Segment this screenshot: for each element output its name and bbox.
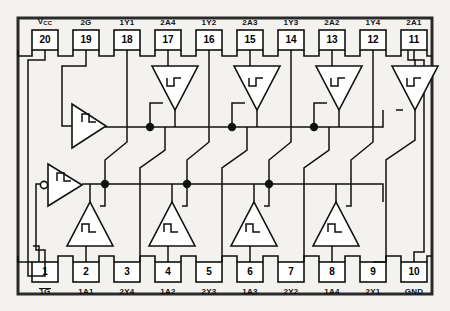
pin-label-6: 1A3 <box>232 287 268 296</box>
wire-2y1-out <box>373 110 415 262</box>
enable-buffer-1g <box>40 164 82 206</box>
pin-number-20: 20 <box>32 35 58 45</box>
pin-label-3: 2Y4 <box>109 287 145 296</box>
pin-number-14: 14 <box>278 35 304 45</box>
schmitt-inverter-1a2 <box>149 202 195 246</box>
pin-label-11: 2A1 <box>396 18 432 27</box>
diagram-canvas <box>0 0 450 311</box>
pin-label-19: 2G <box>68 18 104 27</box>
pin-label-8: 1A4 <box>314 287 350 296</box>
pin-number-18: 18 <box>114 35 140 45</box>
junction-dot <box>101 180 109 188</box>
junction-dot <box>183 180 191 188</box>
pin-number-1: 1 <box>32 267 58 277</box>
pin-number-9: 9 <box>360 267 386 277</box>
package-outline-bottom <box>18 256 432 262</box>
outer-frame <box>18 18 432 294</box>
pin-number-10: 10 <box>401 267 427 277</box>
pin-label-17: 2A4 <box>150 18 186 27</box>
junction-dot <box>310 123 318 131</box>
schmitt-inverter-1a1 <box>67 202 113 246</box>
pin-number-15: 15 <box>237 35 263 45</box>
inversion-bubble-icon <box>40 181 47 188</box>
pin-label-18: 1Y1 <box>109 18 145 27</box>
schmitt-inverter-1a3 <box>231 202 277 246</box>
lower-schmitt-inverters <box>67 202 359 246</box>
pin-label-4: 1A2 <box>150 287 186 296</box>
pin-number-13: 13 <box>319 35 345 45</box>
junction-dot <box>228 123 236 131</box>
pin-label-13: 2A2 <box>314 18 350 27</box>
junction-dot <box>265 180 273 188</box>
pin-number-17: 17 <box>155 35 181 45</box>
pin-label-10: GND <box>396 287 432 296</box>
pin-label-12: 1Y4 <box>355 18 391 27</box>
package-outline-top <box>18 50 432 56</box>
pin-label-14: 1Y3 <box>273 18 309 27</box>
pin-number-5: 5 <box>196 267 222 277</box>
pin-number-16: 16 <box>196 35 222 45</box>
schmitt-inverter-1a4 <box>313 202 359 246</box>
pin-label-7: 2Y2 <box>273 287 309 296</box>
enable-buffers <box>40 104 106 206</box>
logic-diagram-figure: VCC 2G 1Y1 2A4 1Y2 2A3 1Y3 2A2 1Y4 2A1 2… <box>0 0 450 311</box>
pin-number-19: 19 <box>73 35 99 45</box>
pin-number-3: 3 <box>114 267 140 277</box>
pin-label-2: 1A1 <box>68 287 104 296</box>
pin-number-7: 7 <box>278 267 304 277</box>
pin-label-20: VCC <box>27 17 63 27</box>
wire-1gbar-to-enable-buffer <box>36 184 45 262</box>
wire-1y1-route <box>105 50 127 184</box>
pin-number-8: 8 <box>319 267 345 277</box>
upper-schmitt-inverters <box>152 66 438 110</box>
wire-enable-tap-1a4 <box>346 184 351 206</box>
pin-number-6: 6 <box>237 267 263 277</box>
junction-dot <box>146 123 154 131</box>
overline-1gbar <box>39 288 51 289</box>
pin-label-9: 2Y1 <box>355 287 391 296</box>
pin-number-12: 12 <box>360 35 386 45</box>
pin-number-11: 11 <box>401 35 427 45</box>
pin-number-4: 4 <box>155 267 181 277</box>
enable-buffer-2g <box>72 104 106 148</box>
pin-label-15: 2A3 <box>232 18 268 27</box>
pin-number-2: 2 <box>73 267 99 277</box>
pin-label-5: 2Y3 <box>191 287 227 296</box>
pin-label-16: 1Y2 <box>191 18 227 27</box>
bus-1g-enable <box>82 184 383 202</box>
